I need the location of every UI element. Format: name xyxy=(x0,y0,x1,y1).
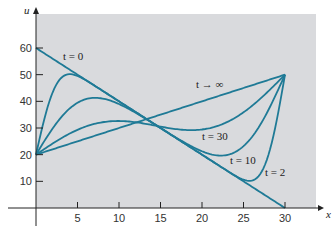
y-tick-label: 20 xyxy=(20,149,32,161)
x-tick-label: 20 xyxy=(196,212,208,224)
label-t10: t = 10 xyxy=(230,154,256,166)
y-tick-label: 60 xyxy=(20,42,32,54)
y-axis-arrow-icon xyxy=(33,7,39,14)
y-tick-label: 10 xyxy=(20,175,32,187)
x-tick-label: 15 xyxy=(154,212,166,224)
y-tick-label: 50 xyxy=(20,69,32,81)
chart: 51015202530102030405060 x u t = 0 t = 2 … xyxy=(0,0,332,235)
x-axis-title: x xyxy=(325,208,331,220)
y-tick-label: 40 xyxy=(20,95,32,107)
x-axis-arrow-icon xyxy=(318,205,324,211)
label-tinf: t → ∞ xyxy=(196,78,224,90)
x-tick-label: 10 xyxy=(113,212,125,224)
label-t0: t = 0 xyxy=(63,50,84,62)
plot-background xyxy=(36,14,316,208)
x-tick-label: 25 xyxy=(237,212,249,224)
y-tick-label: 30 xyxy=(20,122,32,134)
label-t30: t = 30 xyxy=(202,130,228,142)
x-tick-label: 5 xyxy=(74,212,80,224)
y-axis-title: u xyxy=(24,4,30,16)
label-t2: t = 2 xyxy=(265,166,285,178)
x-tick-label: 30 xyxy=(279,212,291,224)
